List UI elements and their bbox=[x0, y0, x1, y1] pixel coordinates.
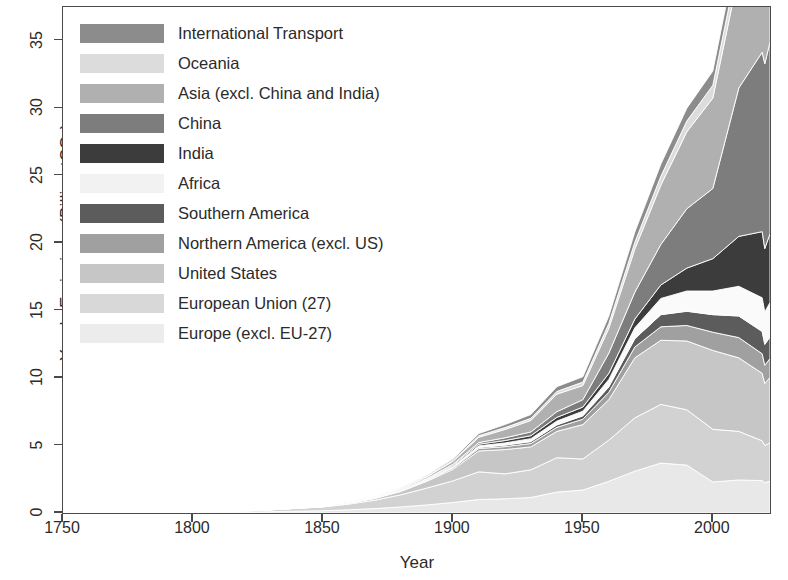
legend-color-swatch bbox=[80, 234, 164, 253]
legend-color-swatch bbox=[80, 204, 164, 223]
y-tick-mark bbox=[54, 376, 62, 377]
y-tick-value: 30 bbox=[28, 90, 46, 124]
y-tick-label: 5 bbox=[20, 436, 54, 454]
legend-item[interactable]: Asia (excl. China and India) bbox=[80, 78, 420, 108]
legend-color-swatch bbox=[80, 144, 164, 163]
legend-item[interactable]: Southern America bbox=[80, 198, 420, 228]
legend-color-swatch bbox=[80, 24, 164, 43]
legend-label: China bbox=[178, 115, 221, 132]
legend: International TransportOceaniaAsia (excl… bbox=[80, 18, 420, 348]
legend-label: Africa bbox=[178, 175, 220, 192]
legend-item[interactable]: Northern America (excl. US) bbox=[80, 228, 420, 258]
y-tick-mark bbox=[54, 107, 62, 108]
legend-label: Europe (excl. EU-27) bbox=[178, 325, 332, 342]
x-tick-mark bbox=[191, 514, 192, 522]
legend-label: Southern America bbox=[178, 205, 309, 222]
legend-item[interactable]: India bbox=[80, 138, 420, 168]
legend-item[interactable]: United States bbox=[80, 258, 420, 288]
x-tick-mark bbox=[61, 514, 62, 522]
y-tick-value: 15 bbox=[28, 293, 46, 327]
legend-color-swatch bbox=[80, 84, 164, 103]
y-tick-label: 10 bbox=[20, 368, 54, 386]
legend-item[interactable]: European Union (27) bbox=[80, 288, 420, 318]
x-tick-mark bbox=[581, 514, 582, 522]
y-tick-mark bbox=[54, 309, 62, 310]
legend-color-swatch bbox=[80, 294, 164, 313]
y-tick-value: 5 bbox=[28, 428, 46, 462]
legend-label: European Union (27) bbox=[178, 295, 331, 312]
legend-label: Oceania bbox=[178, 55, 239, 72]
legend-color-swatch bbox=[80, 324, 164, 343]
legend-label: International Transport bbox=[178, 25, 343, 42]
y-tick-mark bbox=[54, 174, 62, 175]
y-tick-value: 25 bbox=[28, 158, 46, 192]
y-tick-label: 25 bbox=[20, 166, 54, 184]
legend-item[interactable]: Oceania bbox=[80, 48, 420, 78]
legend-label: Northern America (excl. US) bbox=[178, 235, 383, 252]
emissions-area-chart: Yearly Emissions (Billion tCO2) 05101520… bbox=[0, 0, 788, 580]
legend-item[interactable]: China bbox=[80, 108, 420, 138]
y-tick-mark bbox=[54, 39, 62, 40]
x-tick-mark bbox=[711, 514, 712, 522]
y-tick-mark bbox=[54, 444, 62, 445]
x-tick-mark bbox=[451, 514, 452, 522]
y-tick-mark bbox=[54, 511, 62, 512]
legend-item[interactable]: Africa bbox=[80, 168, 420, 198]
y-tick-mark bbox=[54, 241, 62, 242]
y-tick-label: 30 bbox=[20, 98, 54, 116]
legend-color-swatch bbox=[80, 264, 164, 283]
y-tick-value: 35 bbox=[28, 23, 46, 57]
legend-color-swatch bbox=[80, 114, 164, 133]
y-tick-label: 35 bbox=[20, 31, 54, 49]
legend-item[interactable]: Europe (excl. EU-27) bbox=[80, 318, 420, 348]
legend-color-swatch bbox=[80, 54, 164, 73]
legend-color-swatch bbox=[80, 174, 164, 193]
legend-label: India bbox=[178, 145, 214, 162]
legend-label: United States bbox=[178, 265, 277, 282]
x-tick-mark bbox=[321, 514, 322, 522]
y-tick-value: 20 bbox=[28, 225, 46, 259]
legend-item[interactable]: International Transport bbox=[80, 18, 420, 48]
y-tick-label: 20 bbox=[20, 233, 54, 251]
legend-label: Asia (excl. China and India) bbox=[178, 85, 380, 102]
x-axis-title: Year bbox=[62, 553, 772, 573]
y-tick-value: 10 bbox=[28, 360, 46, 394]
y-tick-label: 15 bbox=[20, 301, 54, 319]
